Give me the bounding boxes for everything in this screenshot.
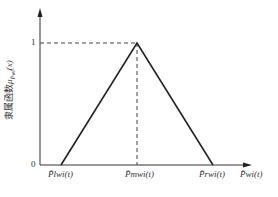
x-point-mid-label: P̃mwi(t) xyxy=(125,169,154,179)
y-label-sub: P̃wi xyxy=(10,70,16,79)
y-tick-0: 0 xyxy=(31,159,36,169)
y-label-arg: (x) xyxy=(4,60,14,70)
x-axis-arrow-icon xyxy=(243,163,252,168)
y-tick-1: 1 xyxy=(31,37,36,47)
x-point-left-label: P̃lwi(t) xyxy=(48,169,73,179)
y-axis-label: 隶属函数μP̃wi(x) xyxy=(2,60,16,120)
y-axis-arrow-icon xyxy=(38,8,43,17)
triangle-membership-curve xyxy=(61,43,213,165)
membership-diagram xyxy=(0,0,278,197)
y-label-symbol: μ xyxy=(4,79,14,84)
y-label-prefix: 隶属函数 xyxy=(4,84,14,120)
x-point-right-label: P̃rwi(t) xyxy=(199,169,225,179)
x-axis-label: P̃wi(t) xyxy=(240,169,263,179)
